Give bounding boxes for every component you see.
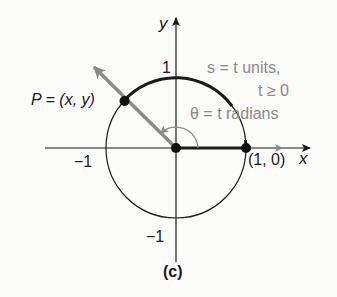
arc-length-s <box>124 78 233 106</box>
y-tick-neg-1: −1 <box>146 229 164 245</box>
y-axis-label: y <box>159 15 168 32</box>
point-P-label: P = (x, y) <box>31 92 95 108</box>
figure-caption: (c) <box>163 264 183 280</box>
arc-length-label-line1: s = t units, <box>207 60 280 76</box>
point-1-0-label: (1, 0) <box>248 152 285 168</box>
arc-length-label-line2: t ≥ 0 <box>258 83 289 99</box>
unit-circle-diagram <box>0 0 337 297</box>
origin-point <box>171 143 181 153</box>
y-tick-1: 1 <box>162 60 171 76</box>
angle-label: θ = t radians <box>190 106 279 122</box>
unit-circle-figure: y 1 −1 −1 x P = (x, y) (1, 0) s = t unit… <box>0 0 337 297</box>
point-P <box>120 96 130 106</box>
x-axis-label: x <box>299 150 308 167</box>
x-tick-neg-1: −1 <box>74 154 92 170</box>
